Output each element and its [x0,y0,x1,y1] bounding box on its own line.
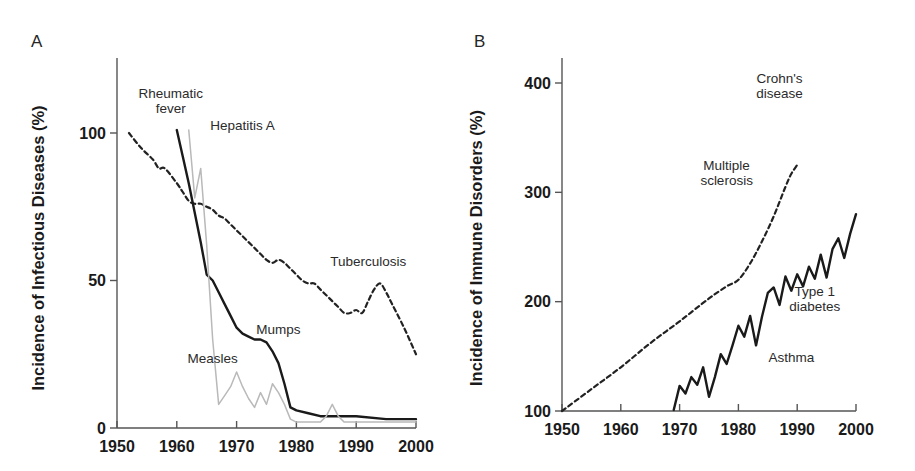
x-tick-label: 1960 [603,421,639,438]
panel-a-tick-marks [110,133,416,428]
series-label-mumps: Mumps [256,322,301,337]
x-tick-label: 1950 [544,421,580,438]
series-label-measles: Measles [188,351,239,366]
series-label-tuberculosis: Tuberculosis [330,254,406,269]
x-tick-label: 1990 [779,421,815,438]
panel-a-annotations: RheumaticfeverHepatitis ATuberculosisMum… [139,86,407,367]
panel-b-y-tick-labels: 100200300400 [524,75,551,420]
series-label-asthma: Asthma [768,350,814,365]
x-tick-label: 1960 [159,438,195,455]
x-tick-label: 1980 [279,438,315,455]
panel-a-letter: A [31,32,43,51]
series-label-rheumatic-fever: Rheumaticfever [139,86,204,116]
series-label-multiple-sclerosis: Multiplesclerosis [700,158,753,188]
x-tick-label: 1950 [99,438,135,455]
series-rheumatic-fever-mumps [177,130,416,419]
y-tick-label: 0 [97,420,106,437]
panel-a: A Incidence of Infectious Diseases (%) 0… [29,32,434,455]
x-tick-label: 2000 [838,421,874,438]
x-tick-label: 1990 [338,438,374,455]
series-label-hepatitis-a: Hepatitis A [210,118,275,133]
series-measles [189,130,416,422]
y-tick-label: 100 [79,125,106,142]
y-tick-label: 200 [524,293,551,310]
panel-a-y-axis-title: Incidence of Infectious Diseases (%) [29,105,47,390]
y-tick-label: 300 [524,184,551,201]
panel-b: B Incidence of Immune Disorders (%) 1002… [467,32,874,438]
y-tick-label: 400 [524,75,551,92]
x-tick-label: 1970 [662,421,698,438]
panel-b-y-axis-title: Incidence of Immune Disorders (%) [467,110,485,386]
panel-b-letter: B [474,32,485,51]
x-tick-label: 1970 [219,438,255,455]
x-tick-label: 2000 [398,438,434,455]
panel-a-curves [129,130,416,422]
y-tick-label: 50 [88,272,106,289]
panel-b-annotations: Crohn'sdiseaseMultiplesclerosisType 1dia… [700,71,840,365]
panel-b-x-tick-labels: 195019601970198019902000 [544,421,874,438]
series-label-type-1-diabetes: Type 1diabetes [789,284,840,314]
series-multiple-sclerosis-crohn-s-disease [562,165,797,411]
series-label-crohns-disease: Crohn'sdisease [756,71,803,101]
panel-a-x-tick-labels: 195019601970198019902000 [99,438,434,455]
y-tick-label: 100 [524,403,551,420]
figure-root: A Incidence of Infectious Diseases (%) 0… [0,0,915,471]
panel-a-y-tick-labels: 050100 [79,125,106,437]
x-tick-label: 1980 [721,421,757,438]
